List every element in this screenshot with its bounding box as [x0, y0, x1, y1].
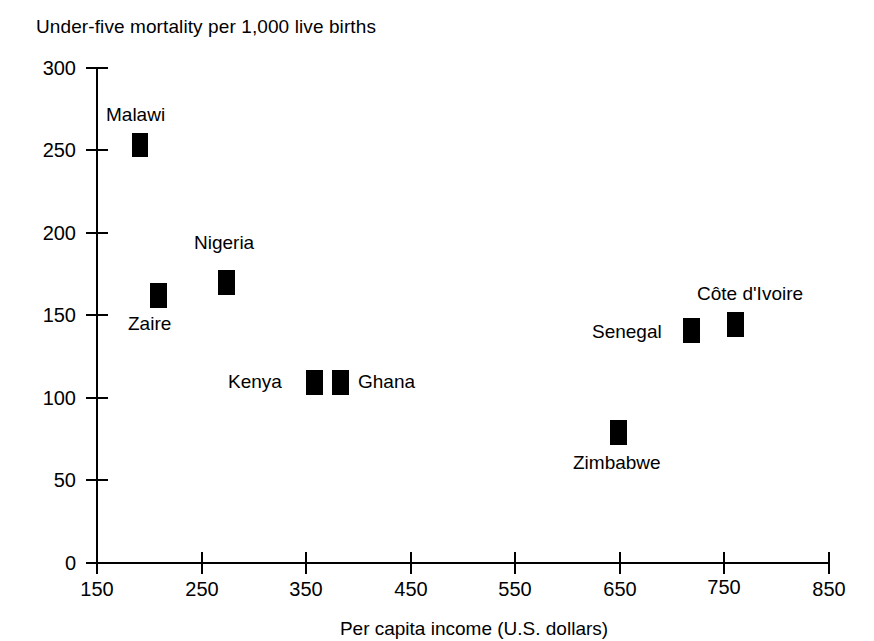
point-label-nigeria: Nigeria: [194, 232, 254, 254]
y-tick-label-50: 50: [16, 469, 76, 491]
point-label-zimbabwe: Zimbabwe: [573, 452, 661, 474]
data-point-zaire[interactable]: [150, 283, 167, 308]
x-tick-label-550: 550: [480, 578, 550, 600]
data-point-zimbabwe[interactable]: [610, 420, 627, 445]
x-tick-label-750: 750: [689, 576, 759, 598]
y-tick-label-100: 100: [16, 387, 76, 409]
y-tick-label-200: 200: [16, 222, 76, 244]
x-tick-label-650: 650: [585, 578, 655, 600]
point-label-ghana: Ghana: [358, 371, 415, 393]
y-tick-label-150: 150: [16, 304, 76, 326]
x-tick-label-150: 150: [62, 578, 132, 600]
point-label-kenya: Kenya: [228, 371, 282, 393]
y-tick-label-300: 300: [16, 57, 76, 79]
x-axis-title-text: Per capita income (U.S. dollars): [340, 618, 608, 640]
x-tick-label-350: 350: [271, 578, 341, 600]
data-point-senegal[interactable]: [683, 318, 700, 343]
x-tick-label-450: 450: [376, 578, 446, 600]
data-point-malawi[interactable]: [132, 133, 148, 157]
x-tick-label-850: 850: [794, 578, 864, 600]
data-point-kenya[interactable]: [306, 370, 323, 395]
x-axis-title: Per capita income (U.S. dollars): [0, 618, 874, 640]
point-label-malawi: Malawi: [106, 104, 165, 126]
data-point-nigeria[interactable]: [218, 270, 235, 295]
x-tick-label-250: 250: [167, 578, 237, 600]
y-tick-label-0: 0: [16, 552, 76, 574]
point-label-senegal: Senegal: [592, 321, 662, 343]
data-point-ghana[interactable]: [332, 370, 349, 395]
y-tick-label-250: 250: [16, 139, 76, 161]
point-label-cote-divoire: Côte d'Ivoire: [697, 283, 803, 305]
data-point-cote-divoire[interactable]: [727, 312, 744, 337]
point-label-zaire: Zaire: [128, 313, 171, 335]
scatter-chart: Under-five mortality per 1,000 live birt…: [0, 0, 874, 641]
